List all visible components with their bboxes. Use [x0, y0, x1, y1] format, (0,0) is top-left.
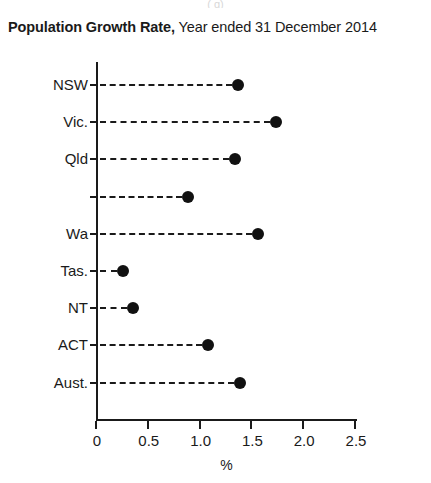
- x-axis-tick-label: 2.0: [281, 432, 327, 449]
- data-row: Tas.: [0, 261, 431, 281]
- data-row: [0, 187, 431, 207]
- leader-line: [100, 270, 117, 272]
- leader-line: [100, 233, 252, 235]
- category-label: ACT: [0, 335, 88, 355]
- y-axis-tick: [90, 382, 97, 384]
- data-row: Aust.: [0, 373, 431, 393]
- leader-line: [100, 84, 232, 86]
- data-point-marker: [232, 79, 244, 91]
- y-axis-tick: [90, 233, 97, 235]
- data-point-marker: [182, 191, 194, 203]
- category-label: NSW: [0, 75, 88, 95]
- category-label: Qld: [0, 149, 88, 169]
- chart-plot-area: NSWVic.QldWaTas.NTACTAust. 00.51.01.52.0…: [0, 0, 431, 483]
- category-label: Tas.: [0, 261, 88, 281]
- data-point-marker: [234, 377, 246, 389]
- data-point-marker: [270, 116, 282, 128]
- x-axis-tick: [354, 421, 356, 429]
- x-axis-tick-label: 0: [74, 432, 120, 449]
- y-axis-tick: [90, 84, 97, 86]
- data-row: Qld: [0, 149, 431, 169]
- x-axis-tick: [250, 421, 252, 429]
- category-label: Aust.: [0, 373, 88, 393]
- x-axis-line: [96, 419, 357, 421]
- leader-line: [100, 382, 234, 384]
- data-point-marker: [117, 265, 129, 277]
- y-axis-tick: [90, 121, 97, 123]
- y-axis-tick: [90, 307, 97, 309]
- category-label: NT: [0, 298, 88, 318]
- data-point-marker: [127, 302, 139, 314]
- data-point-marker: [252, 228, 264, 240]
- leader-line: [100, 196, 182, 198]
- data-point-marker: [202, 339, 214, 351]
- data-row: Wa: [0, 224, 431, 244]
- x-axis-tick-label: 1.0: [178, 432, 224, 449]
- leader-line: [100, 158, 229, 160]
- x-axis-tick: [302, 421, 304, 429]
- x-axis-title: %: [96, 457, 357, 473]
- y-axis-tick: [90, 344, 97, 346]
- y-axis-tick: [90, 158, 97, 160]
- leader-line: [100, 307, 127, 309]
- leader-line: [100, 121, 270, 123]
- category-label: Wa: [0, 224, 88, 244]
- x-axis-tick: [147, 421, 149, 429]
- data-row: ACT: [0, 335, 431, 355]
- data-row: NSW: [0, 75, 431, 95]
- data-row: Vic.: [0, 112, 431, 132]
- x-axis-tick-label: 2.5: [333, 432, 379, 449]
- y-axis-tick: [90, 196, 97, 198]
- data-row: NT: [0, 298, 431, 318]
- x-axis-tick: [95, 421, 97, 429]
- y-axis-tick: [90, 270, 97, 272]
- category-label: Vic.: [0, 112, 88, 132]
- data-point-marker: [229, 153, 241, 165]
- x-axis-tick: [199, 421, 201, 429]
- x-axis-tick-label: 1.5: [229, 432, 275, 449]
- x-axis-tick-label: 0.5: [126, 432, 172, 449]
- leader-line: [100, 344, 202, 346]
